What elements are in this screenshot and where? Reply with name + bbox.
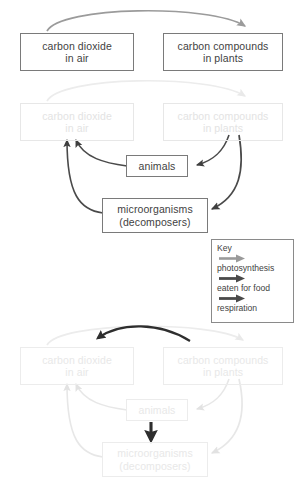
carbon-cycle-diagram: carbon dioxidein air carbon compoundsin … (0, 0, 301, 493)
stage3-carbon-dioxide-box: carbon dioxidein air (20, 347, 134, 385)
key-photosynthesis-arrow-right-icon (218, 254, 289, 263)
stage3-carbon-dioxide-label: carbon dioxidein air (39, 354, 115, 379)
edge-plants-to-microorganisms-stage2 (212, 135, 241, 209)
edge-plants-to-microorganisms-stage3-faded (212, 379, 242, 453)
edge-photosynthesis-stage3-faded (47, 326, 243, 345)
stage2-carbon-dioxide-label: carbon dioxidein air (39, 110, 115, 135)
edge-animals-to-co2-stage3-faded (76, 384, 127, 410)
edge-photosynthesis-stage1 (47, 11, 245, 31)
stage3-microorganisms-box: microorganisms(decomposers) (102, 442, 208, 477)
edge-animals-to-co2-stage2 (76, 140, 127, 166)
key-photosynthesis-label: photosynthesis (217, 263, 289, 273)
key-respiration-label: respiration (217, 303, 289, 313)
key-eaten-for-food-arrow-right-icon (218, 274, 289, 283)
edge-photosynthesis-stage2-faded (47, 81, 245, 101)
key-respiration-arrow-right-icon (218, 294, 289, 303)
stage2-animals-box: animals (126, 155, 188, 177)
stage3-animals-box: animals (126, 399, 188, 421)
key-legend: Key photosynthesis eaten for food respir… (211, 239, 294, 323)
stage3-microorganisms-label: microorganisms(decomposers) (114, 447, 196, 472)
stage1-carbon-compounds-label: carbon compoundsin plants (175, 40, 272, 65)
stage2-carbon-dioxide-box: carbon dioxidein air (20, 103, 134, 141)
stage1-carbon-compounds-box: carbon compoundsin plants (163, 33, 283, 71)
stage3-carbon-compounds-box: carbon compoundsin plants (163, 347, 283, 385)
key-title: Key (217, 243, 289, 253)
stage2-microorganisms-box: microorganisms(decomposers) (102, 198, 208, 233)
stage1-carbon-dioxide-label: carbon dioxidein air (39, 40, 115, 65)
stage3-animals-label: animals (136, 404, 179, 416)
stage2-carbon-compounds-label: carbon compoundsin plants (175, 110, 272, 135)
stage2-animals-label: animals (136, 160, 179, 172)
stage2-carbon-compounds-box: carbon compoundsin plants (163, 103, 283, 141)
stage2-microorganisms-label: microorganisms(decomposers) (114, 203, 196, 228)
stage3-carbon-compounds-label: carbon compoundsin plants (175, 354, 272, 379)
stage1-carbon-dioxide-box: carbon dioxidein air (20, 33, 134, 71)
edge-respiration-stage3 (98, 326, 190, 341)
key-eaten-for-food-label: eaten for food (217, 283, 289, 293)
